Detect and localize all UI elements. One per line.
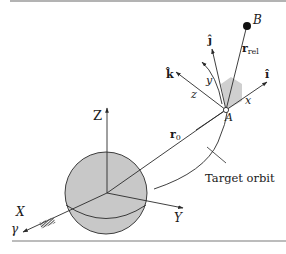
z-local-label: z — [190, 88, 197, 101]
x-axis-label: X — [15, 205, 25, 219]
x-local-label: x — [245, 94, 252, 107]
chaser-point-b — [243, 22, 251, 30]
rrel-label: rrel — [242, 42, 259, 56]
vernal-equinox-hatch — [39, 217, 55, 228]
i-hat-label: î — [265, 68, 270, 81]
k-hat-label: k̂ — [165, 67, 174, 81]
point-b-label: B — [252, 13, 262, 27]
a-line-below — [196, 110, 226, 130]
target-orbit-label: Target orbit — [205, 171, 275, 185]
z-axis-label: Z — [93, 108, 102, 123]
point-a-label: A — [224, 111, 233, 124]
relative-motion-diagram: Z Y X γ r0 Target orbit B A rrel î ĵ k̂ … — [0, 0, 286, 254]
vernal-equinox-label: γ — [11, 222, 19, 236]
r0-label: r0 — [170, 128, 181, 142]
j-hat-label: ĵ — [207, 34, 212, 47]
shaded-plane — [221, 77, 242, 110]
y-local-label: y — [205, 74, 213, 87]
y-axis-label: Y — [174, 211, 183, 225]
